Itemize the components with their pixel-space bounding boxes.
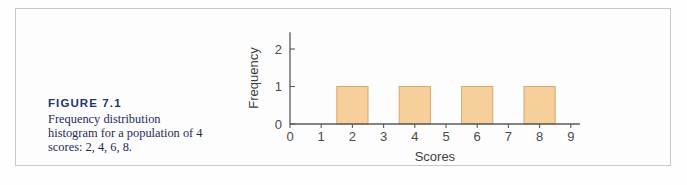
- x-tick-label: 6: [474, 129, 481, 144]
- histogram-bar: [337, 87, 368, 125]
- y-tick-label: 2: [275, 42, 282, 57]
- x-tick-label: 5: [442, 129, 449, 144]
- y-tick-label: 0: [275, 117, 282, 132]
- histogram-bar: [399, 87, 430, 125]
- x-tick-label: 9: [567, 129, 574, 144]
- bars-group: [337, 87, 555, 125]
- x-tick-label: 4: [411, 129, 418, 144]
- x-tick-label: 1: [318, 129, 325, 144]
- figure-container: FIGURE 7.1 Frequency distribution histog…: [0, 0, 687, 185]
- histogram-bar: [524, 87, 555, 125]
- x-tick-label: 7: [505, 129, 512, 144]
- x-axis-title: Scores: [415, 149, 456, 164]
- x-tick-label: 2: [349, 129, 356, 144]
- histogram-bar: [462, 87, 493, 125]
- histogram-plot: 0123456789 012 Scores Frequency: [0, 0, 687, 185]
- x-tick-label: 3: [380, 129, 387, 144]
- x-axis-ticks: 0123456789: [286, 124, 574, 144]
- x-tick-label: 8: [536, 129, 543, 144]
- y-axis-title: Frequency: [246, 47, 261, 109]
- y-tick-label: 1: [275, 79, 282, 94]
- histogram-svg: 0123456789 012 Scores Frequency: [0, 0, 687, 185]
- x-tick-label: 0: [286, 129, 293, 144]
- y-axis-ticks: 012: [275, 42, 295, 132]
